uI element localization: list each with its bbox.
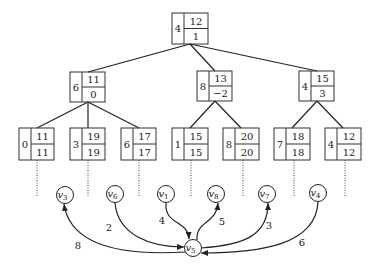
tree-node-level1-0: 6 11 0 xyxy=(70,72,105,102)
edge-weight: 2 xyxy=(106,222,112,233)
node-key: 7 xyxy=(277,139,283,150)
node-key: 8 xyxy=(226,139,232,150)
leaf-dotted-lines xyxy=(37,160,345,196)
tree-leaf-0: 0 11 11 xyxy=(19,128,54,160)
graph-node-v4: v4 xyxy=(310,185,327,202)
node-top-value: 17 xyxy=(138,131,151,142)
tree-leaf-3: 1 15 15 xyxy=(172,128,208,160)
node-bottom-value: 11 xyxy=(36,147,49,158)
edge-weight: 8 xyxy=(75,240,81,251)
diagram-canvas: 4 12 1 6 11 0 8 13 −2 4 15 3 0 11 11 xyxy=(0,0,378,271)
node-bottom-value: 20 xyxy=(241,147,254,158)
node-bottom-value: 12 xyxy=(343,147,356,158)
tree-leaf-1: 3 19 19 xyxy=(70,128,105,160)
node-top-value: 18 xyxy=(292,131,305,142)
node-bottom-value: 15 xyxy=(190,147,203,158)
tree-leaf-2: 6 17 17 xyxy=(121,128,156,160)
node-key: 0 xyxy=(22,139,28,150)
tree-node-root: 4 12 1 xyxy=(172,13,208,44)
node-bottom-value: 17 xyxy=(138,147,151,158)
tree-leaf-5: 7 18 18 xyxy=(274,128,310,160)
node-key: 4 xyxy=(328,139,334,150)
node-key: 6 xyxy=(73,82,79,93)
graph-node-v7: v7 xyxy=(259,186,276,203)
node-top-value: 12 xyxy=(343,131,356,142)
tree-leaf-4: 8 20 20 xyxy=(223,128,259,160)
graph-node-v8: v8 xyxy=(208,186,225,203)
tree-leaf-6: 4 12 12 xyxy=(325,128,361,160)
node-top-value: 20 xyxy=(241,131,254,142)
node-top-value: 11 xyxy=(36,131,49,142)
edge-v5-v8 xyxy=(197,203,218,240)
graph-node-v3: v3 xyxy=(57,187,74,204)
node-key: 6 xyxy=(124,139,130,150)
node-bottom-value: 19 xyxy=(87,147,100,158)
node-bottom-value: 3 xyxy=(319,88,325,99)
node-top-value: 15 xyxy=(316,73,329,84)
node-key: 8 xyxy=(200,81,206,92)
edge-v6-v5 xyxy=(115,203,184,247)
tree-node-level1-1: 8 13 −2 xyxy=(197,71,232,101)
node-key: 4 xyxy=(175,23,181,34)
edge-weight: 4 xyxy=(159,215,165,226)
node-bottom-value: −2 xyxy=(213,88,228,99)
tree-edges xyxy=(37,44,343,128)
node-key: 1 xyxy=(175,139,181,150)
edge-v1-v5 xyxy=(166,203,189,239)
edge-weight: 3 xyxy=(266,220,272,231)
node-key: 3 xyxy=(73,139,79,150)
edge-v5-v3 xyxy=(64,204,186,253)
node-top-value: 11 xyxy=(87,74,100,85)
node-top-value: 19 xyxy=(87,131,100,142)
node-top-value: 12 xyxy=(190,16,203,27)
node-top-value: 15 xyxy=(190,131,203,142)
node-bottom-value: 0 xyxy=(90,89,96,100)
node-bottom-value: 18 xyxy=(292,147,305,158)
tree-node-level1-2: 4 15 3 xyxy=(299,71,334,101)
graph-node-v5: v5 xyxy=(185,240,202,257)
node-bottom-value: 1 xyxy=(193,31,199,42)
edge-weight: 6 xyxy=(299,237,305,248)
edge-weight: 5 xyxy=(219,216,225,227)
edge-v5-v7 xyxy=(201,203,268,248)
graph-node-v1: v1 xyxy=(158,186,175,203)
node-key: 4 xyxy=(302,81,308,92)
graph-node-v6: v6 xyxy=(107,186,124,203)
node-top-value: 13 xyxy=(214,73,227,84)
